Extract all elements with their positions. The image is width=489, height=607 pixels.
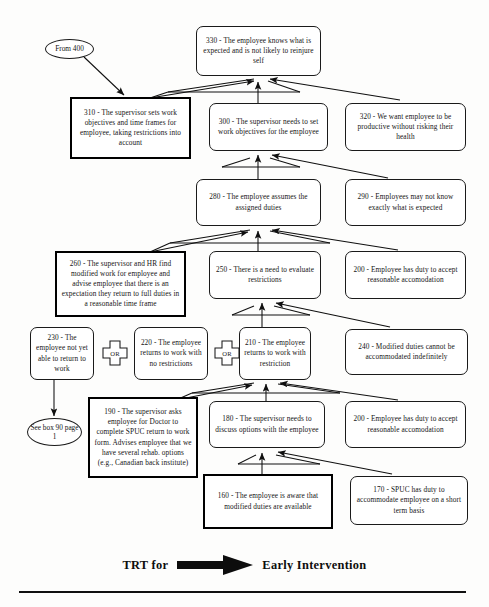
or-connector-2[interactable]: OR [214,340,240,366]
edge-260-lens-b [170,230,250,243]
edge-200a-to-280 [272,230,398,250]
node-220-label: 220 - The employee returns to work with … [139,338,203,368]
node-200-upper-label: 200 - Employee has duty to accept reason… [350,265,461,285]
node-300-label: 300 - The supervisor needs to set work o… [214,117,323,137]
edge-260-to-280 [150,232,248,252]
edge-180-lens-a [276,455,320,464]
edge-310-to-330 [150,81,254,98]
bottom-divider [19,591,466,593]
node-230[interactable]: 230 - The employee not yet able to retur… [30,327,94,380]
terminator-see-box-90[interactable]: See box 90 page 1 [27,418,82,446]
node-220[interactable]: 220 - The employee returns to work with … [134,327,208,380]
node-210[interactable]: 210 - The employee returns to work with … [239,327,311,380]
node-280[interactable]: 280 - The employee assumes the assigned … [196,179,321,226]
terminator-from-400-label: From 400 [55,44,84,53]
node-190[interactable]: 190 - The supervisor asks employee for D… [88,397,198,478]
node-310[interactable]: 310 - The supervisor sets work objective… [70,97,191,159]
node-330-label: 330 - The employee knows what is expecte… [201,36,316,66]
node-190-label: 190 - The supervisor asks employee for D… [94,407,192,467]
edge-210-lens-b [278,384,340,393]
thick-right-arrow-icon [177,555,253,575]
node-290[interactable]: 290 - Employees may not know exactly wha… [345,179,466,226]
edge-300-lens-b [222,158,250,167]
or-connector-2-label: OR [214,340,240,366]
flowchart-page: From 400 See box 90 page 1 330 - The emp… [0,0,489,607]
node-200-lower-label: 200 - Employee has duty to accept reason… [350,414,461,434]
edge-320-to-330 [270,79,400,100]
footer-caption: TRT for Early Intervention [0,548,489,582]
node-180-label: 180 - The supervisor needs to discuss op… [214,414,320,434]
terminator-see-box-90-label: See box 90 page 1 [28,423,81,442]
or-connector-1[interactable]: OR [102,340,128,366]
node-290-label: 290 - Employees may not know exactly wha… [350,192,461,212]
or-connector-1-label: OR [102,340,128,366]
terminator-from-400[interactable]: From 400 [45,39,94,59]
edge-200b-to-210 [280,383,398,400]
edge-240-to-250 [276,303,390,327]
edge-190-lens-b [192,383,254,393]
edge-310-to-330-b [168,79,254,92]
edge-300-lens-a [270,158,300,167]
node-170[interactable]: 170 - SPUC has duty to accommodate emplo… [350,476,468,525]
edge-290-to-300 [272,155,388,178]
node-180[interactable]: 180 - The supervisor needs to discuss op… [209,401,325,448]
node-160-label: 160 - The employee is aware that modifie… [209,491,327,511]
node-250-label: 250 - There is a need to evaluate restri… [214,265,316,285]
node-320[interactable]: 320 - We want employee to be productive … [345,103,466,151]
node-230-label: 230 - The employee not yet able to retur… [35,333,89,373]
node-240-label: 240 - Modified duties cannot be accommod… [350,342,463,362]
footer-left-label: TRT for [122,558,168,573]
node-160[interactable]: 160 - The employee is aware that modifie… [203,474,333,529]
node-310-label: 310 - The supervisor sets work objective… [76,108,185,148]
node-280-label: 280 - The employee assumes the assigned … [201,192,316,212]
edge-250-lens-a [274,306,310,315]
node-330[interactable]: 330 - The employee knows what is expecte… [196,26,321,76]
node-200-upper[interactable]: 200 - Employee has duty to accept reason… [345,251,466,299]
edge-330-lens-b [268,81,300,92]
edge-250-lens-b [232,306,254,315]
edge-from400-to-310 [84,57,124,95]
node-170-label: 170 - SPUC has duty to accommodate emplo… [355,485,463,515]
node-240[interactable]: 240 - Modified duties cannot be accommod… [345,329,468,375]
edge-280-lens-b [270,231,330,243]
node-300[interactable]: 300 - The supervisor needs to set work o… [209,103,328,151]
node-250[interactable]: 250 - There is a need to evaluate restri… [209,251,321,299]
node-320-label: 320 - We want employee to be productive … [350,112,461,142]
node-200-lower[interactable]: 200 - Employee has duty to accept reason… [345,401,466,448]
edge-170-to-180 [278,452,392,474]
node-260[interactable]: 260 - The supervisor and HR find modifie… [55,251,186,317]
node-260-label: 260 - The supervisor and HR find modifie… [61,259,180,309]
footer-right-label: Early Intervention [262,558,366,573]
edge-180-lens-b [238,455,256,464]
node-210-label: 210 - The employee returns to work with … [244,338,306,368]
